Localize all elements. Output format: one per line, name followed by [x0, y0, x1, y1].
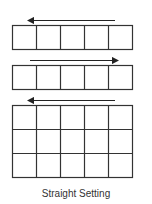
- row-1-blocks: [13, 26, 133, 50]
- diagram-caption: Straight Setting: [0, 188, 152, 199]
- grid-3-blocks: [13, 106, 133, 178]
- row-2-blocks: [13, 66, 133, 90]
- straight-setting-diagram: [0, 0, 152, 204]
